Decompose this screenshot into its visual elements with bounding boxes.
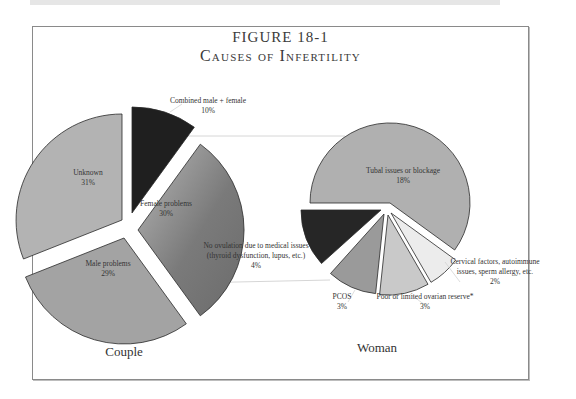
pie-charts: Combined male + female 10% Unknown 31% F… (0, 0, 576, 399)
label-combined: Combined male + female (170, 96, 247, 105)
label-female-pct: 30% (159, 209, 173, 218)
label-female: Female problems (140, 199, 192, 208)
label-no-ovulation-pct: 4% (251, 261, 261, 270)
label-male: Male problems (85, 259, 130, 268)
label-pcos: PCOS (333, 292, 352, 301)
label-tubal-pct: 18% (396, 176, 410, 185)
label-no-ovulation-2: (thyroid dysfunction, lupus, etc.) (207, 251, 306, 260)
label-unknown-pct: 31% (81, 178, 95, 187)
label-ovarian-pct: 3% (420, 302, 430, 311)
label-cervical: Cervical factors, autoimmune (451, 257, 541, 266)
woman-pie (301, 123, 470, 295)
label-combined-pct: 10% (201, 106, 215, 115)
label-no-ovulation: No ovulation due to medical issues (203, 241, 308, 250)
slice-unknown (16, 114, 122, 259)
label-cervical-2: issues, sperm allergy, etc. (457, 267, 534, 276)
caption-couple: Couple (105, 344, 143, 359)
label-male-pct: 29% (101, 269, 115, 278)
label-tubal: Tubal issues or blockage (366, 166, 441, 175)
label-cervical-pct: 2% (490, 277, 500, 286)
label-pcos-pct: 3% (337, 302, 347, 311)
label-unknown: Unknown (73, 168, 103, 177)
caption-woman: Woman (357, 340, 398, 355)
couple-pie (16, 107, 244, 344)
label-ovarian: Poor or limited ovarian reserve* (376, 292, 473, 301)
